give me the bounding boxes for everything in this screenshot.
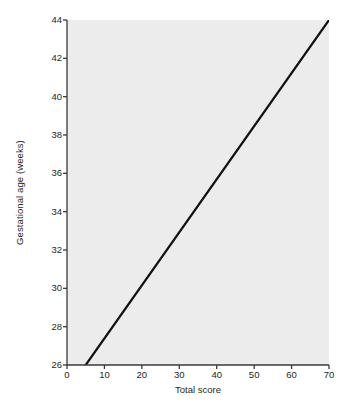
x-tick-label: 20: [137, 370, 148, 380]
y-tick-label: 26: [51, 360, 62, 370]
y-tick-label: 38: [51, 130, 62, 140]
y-axis-tick-labels: 26283032343638404244: [30, 20, 62, 365]
x-axis-title: Total score: [67, 384, 329, 395]
x-tick-label: 40: [211, 370, 222, 380]
chart-figure: Gestational age (weeks) 2628303234363840…: [0, 0, 351, 402]
x-tick-label: 70: [324, 370, 335, 380]
y-tick-label: 42: [51, 54, 62, 64]
y-tick-label: 36: [51, 169, 62, 179]
plot-area: [67, 20, 329, 365]
data-series-line: [86, 20, 329, 365]
y-tick-label: 34: [51, 207, 62, 217]
y-tick-label: 28: [51, 322, 62, 332]
y-axis-title-wrap: Gestational age (weeks): [8, 20, 30, 365]
y-tick-label: 30: [51, 284, 62, 294]
x-tick-label: 0: [64, 370, 69, 380]
x-tick-label: 10: [99, 370, 110, 380]
y-tick-label: 44: [51, 15, 62, 25]
x-tick-label: 30: [174, 370, 185, 380]
y-tick-label: 32: [51, 245, 62, 255]
x-tick-label: 60: [286, 370, 297, 380]
y-axis-title: Gestational age (weeks): [14, 140, 25, 245]
data-line-svg: [67, 20, 329, 365]
x-tick-label: 50: [249, 370, 260, 380]
y-tick-label: 40: [51, 92, 62, 102]
x-axis-tick-labels: 010203040506070: [67, 370, 329, 384]
